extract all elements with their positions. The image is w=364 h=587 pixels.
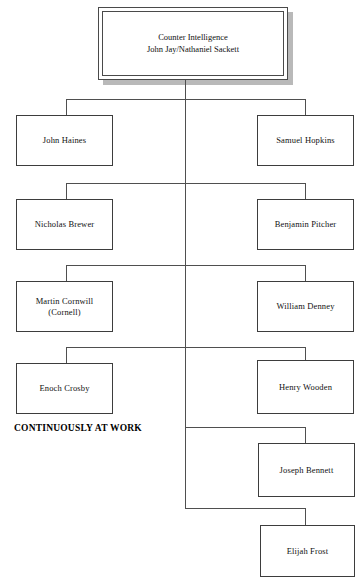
node-label-wrapper: Martin Cornwill (Cornell) (36, 296, 94, 317)
tail-2-drop (305, 508, 306, 525)
node-label: John Haines (43, 135, 86, 146)
node-label: Elijah Frost (287, 546, 329, 557)
root-title-line2: John Jay/Nathaniel Sackett (147, 44, 239, 55)
node-martin-cornwill[interactable]: Martin Cornwill (Cornell) (16, 281, 113, 332)
node-samuel-hopkins[interactable]: Samuel Hopkins (257, 115, 354, 166)
level-2-connector-bar (66, 183, 306, 184)
level-1-left-drop (66, 99, 67, 115)
node-benjamin-pitcher[interactable]: Benjamin Pitcher (257, 199, 354, 250)
continuously-at-work-caption: CONTINUOUSLY AT WORK (14, 423, 142, 433)
node-label: William Denney (276, 301, 334, 312)
node-label: Joseph Bennett (280, 465, 334, 476)
node-label: Henry Wooden (279, 382, 332, 393)
node-john-haines[interactable]: John Haines (16, 115, 113, 166)
level-3-left-drop (66, 265, 67, 281)
node-joseph-bennett[interactable]: Joseph Bennett (258, 443, 355, 497)
node-label: Nicholas Brewer (35, 219, 95, 230)
level-3-right-drop (305, 265, 306, 281)
node-label: Martin Cornwill (36, 296, 94, 306)
node-label: Samuel Hopkins (276, 135, 335, 146)
node-label: Enoch Crosby (39, 383, 89, 394)
tail-2-connector-bar (185, 508, 306, 509)
root-node-inner: Counter Intelligence John Jay/Nathaniel … (102, 11, 284, 76)
node-label: Benjamin Pitcher (275, 219, 337, 230)
node-nicholas-brewer[interactable]: Nicholas Brewer (16, 199, 113, 250)
node-william-denney[interactable]: William Denney (257, 281, 354, 332)
tail-1-drop (305, 427, 306, 443)
level-3-connector-bar (66, 265, 306, 266)
node-elijah-frost[interactable]: Elijah Frost (260, 525, 355, 577)
root-node[interactable]: Counter Intelligence John Jay/Nathaniel … (98, 7, 288, 80)
node-label-secondary: (Cornell) (36, 307, 94, 318)
level-4-connector-bar (66, 347, 306, 348)
root-title-line1: Counter Intelligence (158, 32, 228, 43)
node-henry-wooden[interactable]: Henry Wooden (257, 360, 354, 414)
level-1-right-drop (305, 99, 306, 115)
level-2-left-drop (66, 183, 67, 199)
level-2-right-drop (305, 183, 306, 199)
tail-1-connector-bar (185, 427, 306, 428)
level-4-left-drop (66, 347, 67, 363)
trunk-line (185, 80, 186, 508)
level-1-connector-bar (66, 99, 306, 100)
node-enoch-crosby[interactable]: Enoch Crosby (16, 363, 113, 414)
org-chart: Counter Intelligence John Jay/Nathaniel … (0, 0, 364, 587)
